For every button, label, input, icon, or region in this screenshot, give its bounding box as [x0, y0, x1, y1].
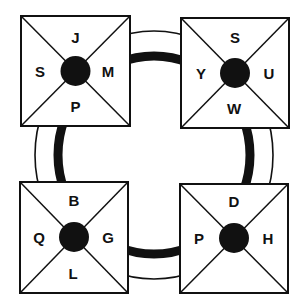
box-top-right: S Y U W [181, 18, 289, 128]
box-bottom-right: D P H [180, 184, 288, 293]
label-right: G [102, 229, 114, 246]
center-dot [219, 223, 249, 253]
puzzle-diagram: J S M P S Y U W B Q G L D P H [0, 0, 304, 308]
label-left: Y [196, 65, 206, 82]
center-dot [59, 222, 89, 252]
center-dot [220, 58, 250, 88]
label-bottom: P [70, 98, 80, 115]
label-right: U [264, 65, 275, 82]
label-left: P [194, 230, 204, 247]
label-bottom: W [227, 100, 242, 117]
label-top: J [71, 29, 79, 46]
label-right: H [263, 230, 274, 247]
label-top: B [69, 192, 80, 209]
label-left: S [35, 63, 45, 80]
label-top: S [230, 29, 240, 46]
box-top-left: J S M P [21, 16, 130, 126]
center-dot [61, 56, 91, 86]
label-top: D [229, 193, 240, 210]
label-right: M [102, 63, 115, 80]
label-left: Q [33, 229, 45, 246]
label-bottom: L [68, 265, 77, 282]
box-bottom-left: B Q G L [20, 182, 128, 293]
